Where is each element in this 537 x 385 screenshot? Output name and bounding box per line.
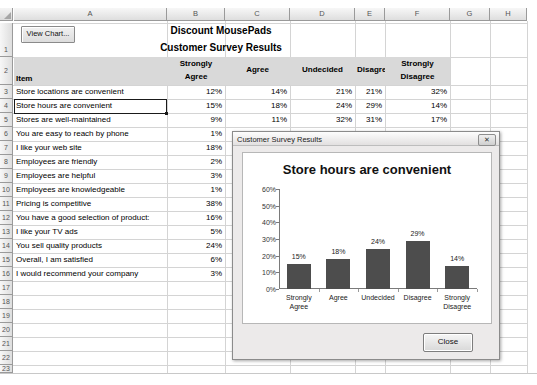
- table-cell-strongly-disagree[interactable]: 32%: [385, 85, 450, 99]
- chart-dialog[interactable]: Customer Survey Results ✕ Store hours ar…: [232, 131, 500, 360]
- row-header-14[interactable]: 14: [0, 239, 13, 253]
- table-cell-item[interactable]: Employees are knowledgeable: [14, 183, 167, 197]
- chart-data-label: 18%: [322, 248, 354, 255]
- row-header-11[interactable]: 11: [0, 197, 13, 211]
- chart-title: Store hours are convenient: [243, 162, 491, 177]
- table-cell-disagree[interactable]: 31%: [355, 113, 385, 127]
- row-header-6[interactable]: 6: [0, 127, 13, 141]
- table-cell-strongly-agree[interactable]: 5%: [167, 225, 225, 239]
- table-cell-item[interactable]: I would recommend your company: [14, 267, 167, 281]
- table-cell-strongly-agree[interactable]: 2%: [167, 155, 225, 169]
- chart-container: Store hours are convenient 0%10%20%30%40…: [242, 152, 492, 324]
- y-axis-tick-mark: [276, 256, 279, 257]
- column-header-d[interactable]: D: [290, 8, 355, 21]
- table-cell-strongly-disagree[interactable]: 17%: [385, 113, 450, 127]
- table-cell-strongly-agree[interactable]: 1%: [167, 127, 225, 141]
- column-header-f[interactable]: F: [385, 8, 450, 21]
- chart-bar: [445, 266, 469, 289]
- table-cell-disagree[interactable]: 29%: [355, 99, 385, 113]
- row-header-10[interactable]: 10: [0, 183, 13, 197]
- table-cell-undecided[interactable]: 32%: [290, 113, 355, 127]
- close-button[interactable]: Close: [423, 333, 473, 352]
- row-header-18[interactable]: 18: [0, 295, 13, 309]
- table-cell-strongly-agree[interactable]: 6%: [167, 253, 225, 267]
- table-cell-agree[interactable]: 18%: [225, 99, 290, 113]
- table-cell-item[interactable]: I like your web site: [14, 141, 167, 155]
- table-cell-strongly-disagree[interactable]: 14%: [385, 99, 450, 113]
- view-chart-button[interactable]: View Chart...: [21, 26, 75, 43]
- row-header-12[interactable]: 12: [0, 211, 13, 225]
- row-header-8[interactable]: 8: [0, 155, 13, 169]
- select-all-corner[interactable]: [0, 8, 13, 21]
- y-axis-tick-label: 40%: [262, 219, 276, 226]
- y-axis-tick-mark: [276, 189, 279, 190]
- table-cell-item[interactable]: Pricing is competitive: [14, 197, 167, 211]
- column-header-e[interactable]: E: [355, 8, 385, 21]
- table-cell-agree[interactable]: 14%: [225, 85, 290, 99]
- y-axis-tick-label: 0%: [266, 286, 276, 293]
- x-axis-category-label: StronglyAgree: [278, 294, 320, 311]
- column-header-b[interactable]: B: [167, 8, 225, 21]
- row-header-20[interactable]: 20: [0, 323, 13, 337]
- gridline-horizontal: [13, 23, 527, 24]
- table-cell-strongly-agree[interactable]: 3%: [167, 169, 225, 183]
- row-header-9[interactable]: 9: [0, 169, 13, 183]
- row-header-2[interactable]: 2: [0, 57, 13, 85]
- table-cell-item[interactable]: Employees are friendly: [14, 155, 167, 169]
- sheet-title-line-2: Customer Survey Results: [76, 42, 366, 53]
- table-cell-item[interactable]: You are easy to reach by phone: [14, 127, 167, 141]
- table-cell-item[interactable]: Store hours are convenient: [14, 99, 167, 113]
- table-cell-strongly-agree[interactable]: 3%: [167, 267, 225, 281]
- table-cell-strongly-agree[interactable]: 24%: [167, 239, 225, 253]
- x-axis-category-label: Undecided: [357, 294, 399, 303]
- row-header-7[interactable]: 7: [0, 141, 13, 155]
- table-cell-strongly-agree[interactable]: 38%: [167, 197, 225, 211]
- row-header-16[interactable]: 16: [0, 267, 13, 281]
- gridline-vertical: [527, 21, 528, 373]
- chart-bar: [366, 249, 390, 289]
- header-cell-agree[interactable]: Agree: [225, 57, 290, 85]
- header-cell-undecided[interactable]: Undecided: [290, 57, 355, 85]
- row-header-4[interactable]: 4: [0, 99, 13, 113]
- table-cell-item[interactable]: Store locations are convenient: [14, 85, 167, 99]
- x-axis-category-label: Agree: [317, 294, 359, 303]
- table-cell-item[interactable]: I like your TV ads: [14, 225, 167, 239]
- row-header-13[interactable]: 13: [0, 225, 13, 239]
- y-axis-tick-label: 50%: [262, 202, 276, 209]
- row-header-21[interactable]: 21: [0, 337, 13, 351]
- table-cell-strongly-agree[interactable]: 12%: [167, 85, 225, 99]
- row-header-3[interactable]: 3: [0, 85, 13, 99]
- chart-bar: [406, 241, 430, 289]
- table-cell-item[interactable]: Stores are well-maintained: [14, 113, 167, 127]
- table-cell-item[interactable]: You have a good selection of product:: [14, 211, 167, 225]
- table-cell-disagree[interactable]: 21%: [355, 85, 385, 99]
- table-cell-strongly-agree[interactable]: 18%: [167, 141, 225, 155]
- column-header-g[interactable]: G: [450, 8, 490, 21]
- table-cell-strongly-agree[interactable]: 9%: [167, 113, 225, 127]
- row-header-5[interactable]: 5: [0, 113, 13, 127]
- column-header-h[interactable]: H: [490, 8, 527, 21]
- chart-data-label: 14%: [441, 255, 473, 262]
- table-cell-item[interactable]: Employees are helpful: [14, 169, 167, 183]
- table-cell-undecided[interactable]: 24%: [290, 99, 355, 113]
- table-cell-undecided[interactable]: 21%: [290, 85, 355, 99]
- row-header-23[interactable]: 23: [0, 365, 13, 373]
- header-cell-disagree[interactable]: Disagree: [355, 57, 385, 85]
- table-cell-agree[interactable]: 11%: [225, 113, 290, 127]
- column-header-c[interactable]: C: [225, 8, 290, 21]
- header-cell-item[interactable]: Item: [14, 57, 167, 85]
- table-cell-strongly-agree[interactable]: 15%: [167, 99, 225, 113]
- close-icon[interactable]: ✕: [478, 134, 496, 146]
- table-cell-item[interactable]: Overall, I am satisfied: [14, 253, 167, 267]
- row-header-17[interactable]: 17: [0, 281, 13, 295]
- row-header-19[interactable]: 19: [0, 309, 13, 323]
- column-header-a[interactable]: A: [14, 8, 167, 21]
- row-header-15[interactable]: 15: [0, 253, 13, 267]
- row-header-1[interactable]: 1: [0, 23, 13, 57]
- header-cell-strongly-disagree[interactable]: StronglyDisagree: [385, 57, 450, 85]
- table-cell-strongly-agree[interactable]: 1%: [167, 183, 225, 197]
- table-cell-item[interactable]: You sell quality products: [14, 239, 167, 253]
- header-cell-strongly-agree[interactable]: StronglyAgree: [167, 57, 225, 85]
- row-header-22[interactable]: 22: [0, 351, 13, 365]
- table-cell-strongly-agree[interactable]: 16%: [167, 211, 225, 225]
